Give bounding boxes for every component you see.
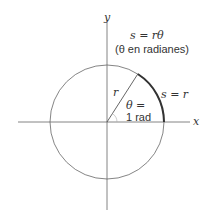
formula-line2: (θ en radianes)	[115, 44, 189, 55]
angle-arc	[112, 114, 117, 122]
formula-line1: s = rθ	[130, 30, 164, 41]
diagram-graphics	[0, 0, 207, 219]
radian-diagram: y x s = rθ (θ en radianes) r s = r θ = 1…	[0, 0, 207, 219]
x-axis-label: x	[193, 116, 199, 127]
y-axis-label: y	[104, 12, 110, 23]
radius-label: r	[113, 87, 118, 98]
angle-label-line1: θ =	[126, 100, 145, 111]
angle-label-line2: 1 rad	[126, 112, 151, 123]
arc-length-label: s = r	[161, 89, 188, 100]
